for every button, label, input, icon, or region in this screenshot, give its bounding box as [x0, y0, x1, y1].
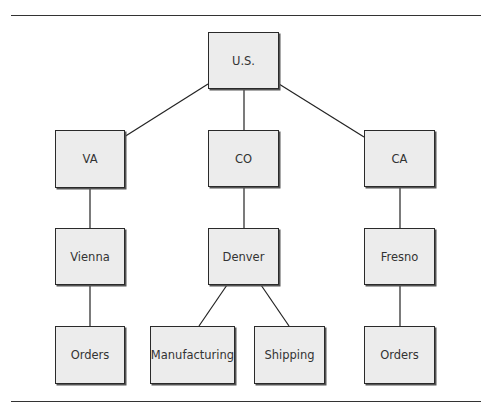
node-fresno: Fresno	[364, 228, 435, 285]
node-vienna: Vienna	[55, 228, 125, 285]
node-co: CO	[208, 130, 279, 187]
node-orders-ca: Orders	[364, 326, 435, 384]
node-manufacturing: Manufacturing	[150, 326, 235, 384]
node-ca: CA	[364, 130, 435, 187]
node-orders-va: Orders	[55, 326, 125, 384]
node-shipping: Shipping	[254, 326, 325, 384]
node-us: U.S.	[208, 32, 279, 89]
node-va: VA	[55, 130, 125, 188]
node-denver: Denver	[208, 228, 279, 285]
